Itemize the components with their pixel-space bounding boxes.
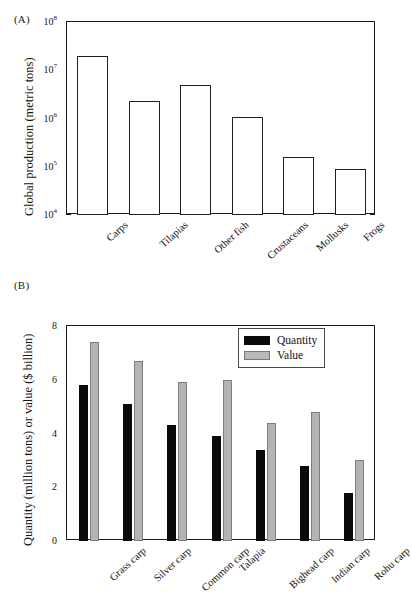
panel-a-bar bbox=[232, 117, 263, 215]
panel-a-y-tick-7: 107 bbox=[0, 64, 57, 75]
panel-b-category-label: Grass carp bbox=[108, 545, 149, 583]
legend-swatch-quantity bbox=[244, 336, 270, 345]
panel-b-y-tick-2: 2 bbox=[0, 481, 57, 492]
panel-a-bar bbox=[180, 85, 211, 215]
panel-a-category-label: Frogs bbox=[361, 219, 386, 243]
panel-a-category-label: Crustaceans bbox=[265, 219, 310, 261]
panel-b-bar-value bbox=[223, 380, 232, 541]
panel-b-category-label: Bighead carp bbox=[287, 545, 336, 590]
legend-label-value: Value bbox=[277, 350, 303, 362]
panel-a-category-label: Carps bbox=[104, 219, 130, 244]
panel-a-bar bbox=[77, 56, 108, 215]
panel-b-bar-value bbox=[355, 460, 364, 541]
panel-b-category-label: Indian carp bbox=[329, 545, 372, 585]
panel-a-category-label: Tilapias bbox=[158, 219, 190, 250]
panel-b-bar-value bbox=[90, 342, 99, 541]
panel-a-bar bbox=[129, 101, 160, 215]
panel-a-plot-area bbox=[66, 21, 375, 214]
panel-b-tag: (B) bbox=[14, 279, 29, 291]
legend-swatch-value bbox=[244, 351, 270, 360]
panel-b-bar-value bbox=[267, 423, 276, 541]
panel-b-bar-quantity bbox=[79, 385, 88, 541]
panel-b-y-axis-label: Quantity (million tons) or value ($ bill… bbox=[21, 334, 36, 546]
panel-b-bar-quantity bbox=[212, 436, 221, 541]
panel-b-bar-quantity bbox=[123, 404, 132, 541]
panel-a-y-tick-4: 104 bbox=[0, 209, 57, 220]
legend-entry-quantity: Quantity bbox=[244, 333, 317, 348]
panel-a-bar bbox=[335, 169, 366, 215]
panel-b-bar-value bbox=[178, 382, 187, 541]
panel-a-y-axis-label: Global production (metric tons) bbox=[22, 57, 37, 216]
panel-b-y-tick-6: 6 bbox=[0, 373, 57, 384]
panel-a-tick-mark bbox=[66, 214, 71, 215]
panel-b-bar-quantity bbox=[344, 493, 353, 541]
panel-a-y-tick-6: 106 bbox=[0, 112, 57, 123]
panel-a-category-label: Mollusks bbox=[314, 219, 350, 253]
panel-b-bar-quantity bbox=[256, 450, 265, 541]
panel-b-bar-quantity bbox=[167, 425, 176, 541]
panel-b-y-tick-0: 0 bbox=[0, 535, 57, 546]
legend-entry-value: Value bbox=[244, 348, 317, 363]
panel-a-tick-mark-right bbox=[370, 214, 375, 215]
panel-b-y-tick-8: 8 bbox=[0, 320, 57, 331]
panel-a-y-tick-5: 105 bbox=[0, 160, 57, 171]
panel-a-category-label: Other fish bbox=[212, 219, 251, 255]
panel-b-plot-area bbox=[66, 325, 375, 540]
panel-b-bar-value bbox=[311, 412, 320, 541]
panel-b-bar-quantity bbox=[300, 466, 309, 541]
panel-b-category-label: Silver carp bbox=[152, 545, 193, 584]
panel-b-legend: Quantity Value bbox=[238, 328, 325, 368]
panel-a-y-tick-8: 108 bbox=[0, 16, 57, 27]
panel-b-category-label: Rohu carp bbox=[372, 545, 412, 582]
legend-label-quantity: Quantity bbox=[277, 335, 317, 347]
panel-a-bar bbox=[283, 157, 314, 215]
panel-b-bar-value bbox=[134, 361, 143, 541]
panel-b-y-tick-4: 4 bbox=[0, 427, 57, 438]
